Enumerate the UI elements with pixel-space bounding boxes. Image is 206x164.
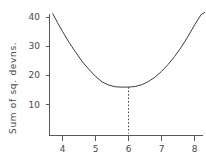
sum-of-squares-curve bbox=[53, 12, 205, 87]
chart-figure: Sum of sq. devns. 40 30 20 10 4 5 6 7 8 bbox=[0, 0, 206, 164]
x-tick-label-7: 7 bbox=[159, 144, 165, 154]
y-tick-label-30: 30 bbox=[29, 41, 41, 51]
y-tick-label-10: 10 bbox=[29, 100, 41, 110]
x-tick-label-5: 5 bbox=[93, 144, 99, 154]
x-tick-label-4: 4 bbox=[60, 144, 66, 154]
y-tick-label-40: 40 bbox=[29, 12, 41, 22]
x-tick-label-6: 6 bbox=[126, 144, 132, 154]
y-axis-title: Sum of sq. devns. bbox=[8, 42, 18, 134]
parabola-plot: Sum of sq. devns. 40 30 20 10 4 5 6 7 8 bbox=[0, 0, 206, 164]
y-tick-label-20: 20 bbox=[29, 70, 41, 80]
x-tick-label-8: 8 bbox=[192, 144, 198, 154]
